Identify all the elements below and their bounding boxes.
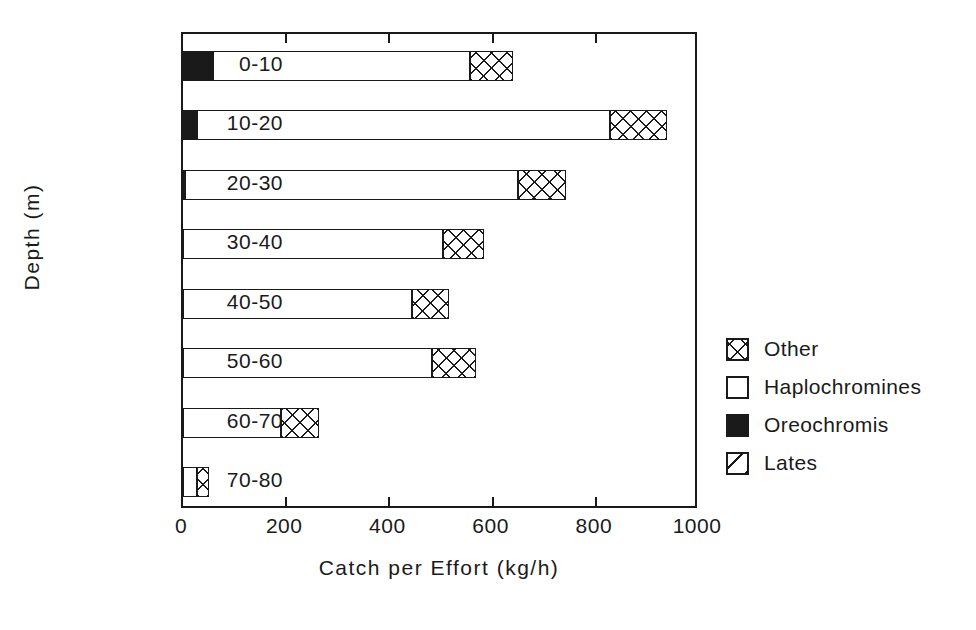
x-tick-mark: [388, 34, 390, 43]
bar-segment-haplochromines: [183, 229, 443, 259]
x-tick-mark: [388, 497, 390, 506]
y-tick-label: 10-20: [227, 111, 283, 135]
legend-swatch-haplochromines: [726, 376, 749, 399]
legend-label: Other: [764, 337, 819, 361]
x-tick-mark: [595, 497, 597, 506]
bar-segment-oreochromis: [183, 51, 213, 81]
legend-label: Haplochromines: [764, 375, 921, 399]
bar-segment-other: [518, 170, 565, 200]
x-tick-label: 600: [472, 514, 509, 538]
y-tick-label: 40-50: [227, 290, 283, 314]
y-tick-label: 0-10: [239, 52, 283, 76]
bar-segment-other: [443, 229, 484, 259]
y-axis-label: Depth (m): [20, 147, 44, 327]
y-tick-label: 20-30: [227, 171, 283, 195]
bar-segment-haplochromines: [183, 348, 432, 378]
x-tick-label: 1000: [673, 514, 722, 538]
x-tick-mark: [285, 497, 287, 506]
x-tick-mark: [492, 497, 494, 506]
legend-item: Oreochromis: [726, 406, 921, 444]
bar-segment-haplochromines: [183, 289, 412, 319]
legend-label: Lates: [764, 451, 817, 475]
bar-segment-other: [197, 467, 208, 497]
legend-label: Oreochromis: [764, 413, 889, 437]
legend-swatch-other: [726, 338, 749, 361]
x-tick-mark: [285, 34, 287, 43]
legend-item: Haplochromines: [726, 368, 921, 406]
y-tick-label: 70-80: [227, 468, 283, 492]
bar-segment-haplochromines: [183, 467, 197, 497]
legend-swatch-lates: [726, 452, 749, 475]
bar-segment-other: [610, 110, 667, 140]
bar-segment-oreochromis: [183, 110, 197, 140]
legend-item: Other: [726, 330, 921, 368]
bar-segment-other: [281, 408, 319, 438]
bar-segment-other: [412, 289, 449, 319]
x-axis-label: Catch per Effort (kg/h): [181, 556, 697, 580]
y-tick-label: 50-60: [227, 349, 283, 373]
x-tick-mark: [492, 34, 494, 43]
x-tick-mark: [595, 34, 597, 43]
bar-segment-other: [432, 348, 475, 378]
legend-swatch-oreochromis: [726, 414, 749, 437]
x-tick-label: 0: [175, 514, 187, 538]
bar-segment-other: [470, 51, 513, 81]
x-tick-label: 800: [576, 514, 613, 538]
chart-legend: OtherHaplochrominesOreochromisLates: [726, 330, 921, 482]
y-tick-label: 60-70: [227, 409, 283, 433]
x-tick-label: 400: [369, 514, 406, 538]
plot-area: [181, 32, 697, 508]
legend-item: Lates: [726, 444, 921, 482]
chart-figure: Depth (m) 02004006008001000 0-1010-2020-…: [0, 0, 976, 630]
y-tick-label: 30-40: [227, 230, 283, 254]
x-tick-label: 200: [266, 514, 303, 538]
